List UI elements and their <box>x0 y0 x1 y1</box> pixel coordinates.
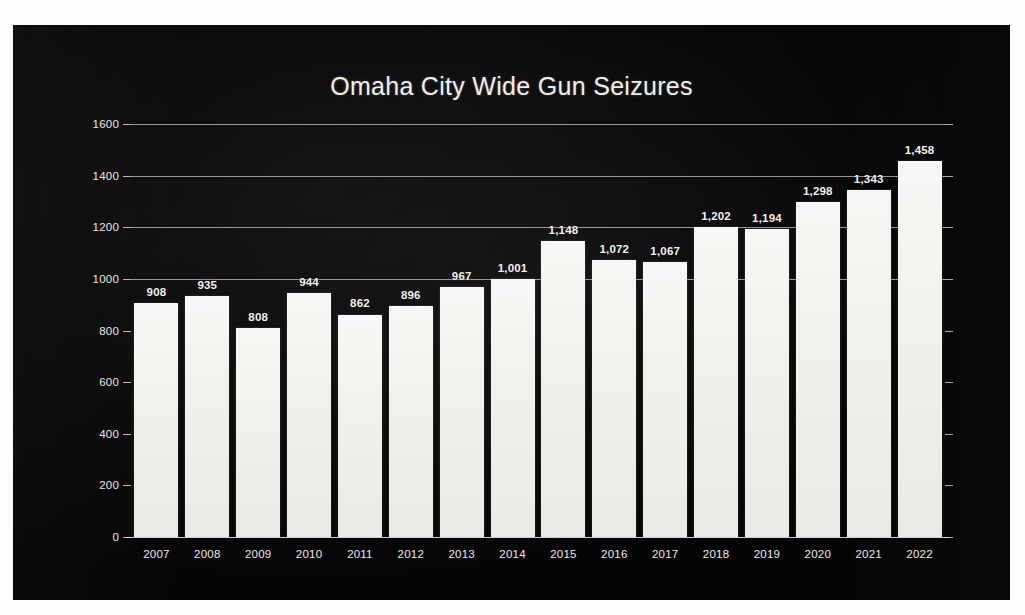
bar <box>796 202 840 537</box>
bar-value-label: 1,202 <box>691 210 742 222</box>
y-axis-tick-mark <box>123 124 131 125</box>
bar-value-label: 1,343 <box>843 173 894 185</box>
y-axis-tick-mark-right <box>945 485 953 486</box>
y-axis-tick-mark <box>123 176 131 177</box>
y-axis-tick-label: 1600 <box>73 118 119 130</box>
chart-slide: Omaha City Wide Gun Seizures 02004006008… <box>13 25 1010 600</box>
bar-value-label: 935 <box>182 279 233 291</box>
y-axis-tick-label: 800 <box>73 325 119 337</box>
bar-value-label: 808 <box>233 311 284 323</box>
y-axis-tick-label: 200 <box>73 479 119 491</box>
y-axis-tick-mark <box>123 227 131 228</box>
bar-value-label: 1,298 <box>792 185 843 197</box>
photo-page: Omaha City Wide Gun Seizures 02004006008… <box>0 0 1025 615</box>
y-axis-tick-mark-right <box>945 331 953 332</box>
bar-value-label: 1,458 <box>894 144 945 156</box>
x-axis-tick-label: 2013 <box>436 548 487 560</box>
bar <box>134 303 178 537</box>
y-axis-tick-label: 400 <box>73 428 119 440</box>
y-axis-tick-mark-right <box>945 124 953 125</box>
bar-value-label: 1,067 <box>640 245 691 257</box>
chart-title: Omaha City Wide Gun Seizures <box>13 72 1010 101</box>
bar <box>643 262 687 537</box>
y-axis-tick-mark <box>123 485 131 486</box>
bar-value-label: 1,148 <box>538 224 589 236</box>
y-axis-tick-mark <box>123 434 131 435</box>
bar <box>745 229 789 537</box>
y-axis-tick-mark-right <box>945 382 953 383</box>
y-axis-tick-label: 600 <box>73 376 119 388</box>
x-axis-tick-label: 2008 <box>182 548 233 560</box>
x-axis-tick-label: 2007 <box>131 548 182 560</box>
x-axis-tick-label: 2010 <box>284 548 335 560</box>
y-axis-tick-mark-right <box>945 279 953 280</box>
y-axis-tick-mark-right <box>945 176 953 177</box>
y-axis-tick-mark-right <box>945 227 953 228</box>
x-axis-tick-label: 2009 <box>233 548 284 560</box>
bar <box>898 161 942 537</box>
y-axis-tick-mark <box>123 331 131 332</box>
bar <box>541 241 585 537</box>
bar <box>389 306 433 537</box>
gridline <box>131 124 945 125</box>
x-axis-tick-label: 2019 <box>742 548 793 560</box>
bar-value-label: 1,072 <box>589 243 640 255</box>
y-axis-tick-label: 0 <box>73 531 119 543</box>
bar <box>491 279 535 537</box>
bar <box>338 315 382 538</box>
bar-value-label: 896 <box>385 289 436 301</box>
x-axis-tick-label: 2022 <box>894 548 945 560</box>
x-axis-tick-label: 2014 <box>487 548 538 560</box>
x-axis-tick-label: 2017 <box>640 548 691 560</box>
x-axis-line <box>126 537 949 538</box>
y-axis-tick-label: 1400 <box>73 170 119 182</box>
x-axis-tick-label: 2015 <box>538 548 589 560</box>
bar-value-label: 1,001 <box>487 262 538 274</box>
bar-value-label: 944 <box>284 276 335 288</box>
plot-area: 9089358089448628969671,0011,1481,0721,06… <box>131 124 945 537</box>
bar-value-label: 967 <box>436 270 487 282</box>
y-axis-tick-label: 1000 <box>73 273 119 285</box>
bar <box>440 287 484 537</box>
x-axis-tick-label: 2011 <box>335 548 386 560</box>
y-axis-labels: 02004006008001000120014001600 <box>73 124 119 537</box>
bar <box>694 227 738 537</box>
bar <box>287 293 331 537</box>
gridline <box>131 176 945 177</box>
bar-value-label: 1,194 <box>742 212 793 224</box>
x-axis-tick-label: 2012 <box>385 548 436 560</box>
x-axis-tick-label: 2021 <box>843 548 894 560</box>
bar-value-label: 908 <box>131 286 182 298</box>
y-axis-tick-mark <box>123 279 131 280</box>
bar <box>592 260 636 537</box>
x-axis-tick-label: 2016 <box>589 548 640 560</box>
y-axis-tick-mark-right <box>945 434 953 435</box>
bar <box>847 190 891 537</box>
x-axis-tick-label: 2018 <box>691 548 742 560</box>
y-axis-tick-label: 1200 <box>73 221 119 233</box>
bar-value-label: 862 <box>335 297 386 309</box>
bar <box>185 296 229 537</box>
x-axis-tick-label: 2020 <box>792 548 843 560</box>
bar <box>236 328 280 537</box>
y-axis-tick-mark <box>123 382 131 383</box>
